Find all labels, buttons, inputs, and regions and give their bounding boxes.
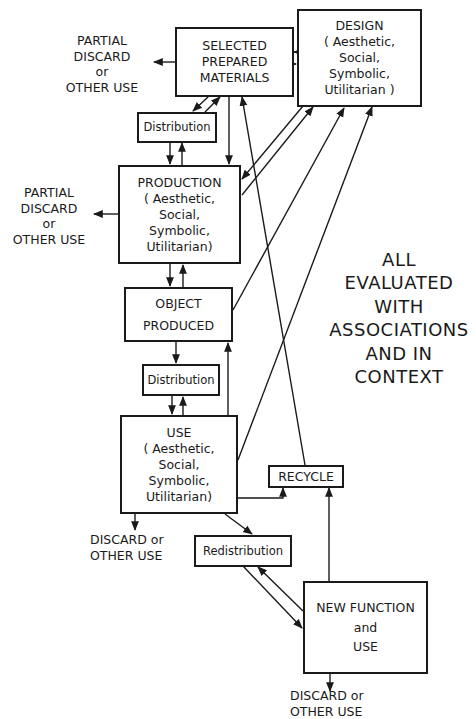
node-line: PREPARED [202, 54, 268, 70]
node-line: and [354, 618, 378, 637]
node-object-produced: OBJECT PRODUCED [124, 287, 233, 342]
node-redistribution: Redistribution [194, 535, 292, 567]
node-recycle: RECYCLE [268, 465, 344, 488]
label-line: OTHER USE [90, 548, 176, 564]
label-line: or [52, 64, 152, 80]
node-distribution-1: Distribution [137, 112, 217, 143]
label-line: OTHER USE [290, 704, 376, 719]
node-line: DESIGN [335, 18, 383, 34]
node-line: ( Aesthetic, [324, 34, 395, 50]
node-line: OBJECT [155, 293, 201, 314]
label-line: PARTIAL [6, 185, 92, 201]
node-line: ( Aesthetic, [143, 441, 214, 457]
annotation-line: EVALUATED [322, 271, 476, 294]
annotation-line: WITH [322, 295, 476, 318]
node-distribution-2: Distribution [142, 364, 220, 396]
node-line: Utilitarian) [146, 489, 212, 505]
node-line: USE [167, 425, 192, 441]
node-line: Redistribution [203, 544, 283, 559]
label-line: DISCARD [6, 201, 92, 217]
arrow-production-to-design [242, 107, 313, 195]
node-line: NEW FUNCTION [316, 598, 415, 617]
label-line: or [6, 216, 92, 232]
node-line: PRODUCTION [137, 175, 221, 191]
node-line: USE [353, 637, 378, 656]
output-production-partial-discard: PARTIAL DISCARD or OTHER USE [6, 185, 92, 248]
output-new-function-discard: DISCARD or OTHER USE [290, 688, 376, 719]
arrow-recycle-to-materials [242, 97, 305, 465]
node-line: SELECTED [202, 38, 267, 54]
output-use-discard: DISCARD or OTHER USE [90, 532, 176, 563]
node-line: Utilitarian ) [324, 82, 394, 98]
node-line: Distribution [147, 373, 214, 388]
annotation-line: AND IN [322, 342, 476, 365]
node-line: Distribution [143, 120, 210, 135]
node-use: USE ( Aesthetic, Social, Symbolic, Utili… [120, 415, 238, 514]
node-line: PRODUCED [143, 315, 214, 336]
node-line: MATERIALS [200, 70, 270, 86]
node-production: PRODUCTION ( Aesthetic, Social, Symbolic… [118, 165, 241, 264]
label-line: PARTIAL [52, 33, 152, 49]
arrow-design-to-production [242, 106, 303, 179]
node-line: ( Aesthetic, [144, 191, 215, 207]
node-line: RECYCLE [278, 469, 334, 485]
arrow-use-to-redistribution [225, 514, 252, 534]
output-materials-partial-discard: PARTIAL DISCARD or OTHER USE [52, 33, 152, 96]
annotation-line: CONTEXT [322, 365, 476, 388]
annotation-line: ASSOCIATIONS [322, 318, 476, 341]
label-line: DISCARD or [290, 688, 376, 704]
node-line: Social, [158, 457, 199, 473]
label-line: DISCARD [52, 49, 152, 65]
node-design: DESIGN ( Aesthetic, Social, Symbolic, Ut… [297, 9, 422, 107]
node-new-function-and-use: NEW FUNCTION and USE [303, 581, 428, 674]
node-line: Social, [339, 50, 380, 66]
arrow-redistribution-to-new-function [243, 566, 302, 628]
node-line: Symbolic, [149, 223, 210, 239]
label-line: OTHER USE [6, 232, 92, 248]
arrow-use-to-recycle [238, 488, 283, 498]
node-line: Utilitarian) [146, 239, 212, 255]
node-line: Social, [159, 207, 200, 223]
node-line: Symbolic, [149, 473, 210, 489]
node-selected-prepared-materials: SELECTED PREPARED MATERIALS [175, 27, 294, 97]
arrow-materials-to-distribution1 [193, 97, 208, 111]
label-line: OTHER USE [52, 80, 152, 96]
annotation-line: ALL [322, 248, 476, 271]
node-line: Symbolic, [329, 66, 390, 82]
label-line: DISCARD or [90, 532, 176, 548]
annotation-all-evaluated: ALL EVALUATED WITH ASSOCIATIONS AND IN C… [322, 248, 476, 388]
arrow-distribution1-to-materials [205, 97, 220, 112]
